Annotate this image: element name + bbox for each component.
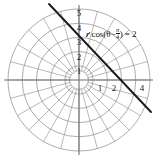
grid-spoke-225 — [29, 80, 79, 130]
vertical-tick-label-5: 5 — [72, 9, 86, 18]
vertical-tick-label-2: 2 — [72, 53, 86, 62]
horizontal-tick-label-4: 4 — [136, 84, 148, 93]
grid-spoke-195 — [10, 80, 79, 98]
horizontal-tick-label-1: 1 — [94, 84, 106, 93]
vertical-tick-label-3: 3 — [72, 38, 86, 47]
vertical-tick-label-1: 1 — [72, 67, 86, 76]
grid-spoke-210 — [18, 80, 79, 116]
grid-spoke-30 — [79, 45, 140, 81]
grid-spoke-255 — [61, 80, 79, 149]
polar-graph-figure: 5 4 3 2 1 1 2 4 r cos(θ−π4) = 2 — [0, 0, 157, 158]
equation-cos-open: cos( — [92, 29, 107, 39]
plotted-line-curve — [49, 4, 151, 112]
vertical-tick-label-4: 4 — [72, 24, 86, 33]
grid-spoke-240 — [44, 80, 80, 141]
grid-spoke-165 — [10, 62, 79, 80]
horizontal-tick-label-2: 2 — [108, 84, 120, 93]
equation-annotation: r cos(θ−π4) = 2 — [86, 27, 136, 40]
equation-rhs: 2 — [132, 29, 136, 39]
grid-spoke-150 — [18, 45, 79, 81]
